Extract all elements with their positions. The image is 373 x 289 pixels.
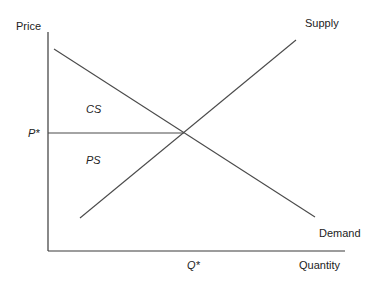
supply-curve <box>80 40 296 218</box>
y-axis-label: Price <box>16 20 41 32</box>
equilibrium-price-label: P* <box>28 127 40 139</box>
equilibrium-quantity-label: Q* <box>187 259 201 271</box>
x-axis-label: Quantity <box>299 259 340 271</box>
producer-surplus-label: PS <box>86 154 101 166</box>
consumer-surplus-label: CS <box>86 103 102 115</box>
supply-demand-diagram: Price Quantity Supply Demand P* Q* CS PS <box>0 0 373 289</box>
demand-label: Demand <box>319 227 361 239</box>
supply-label: Supply <box>305 17 339 29</box>
